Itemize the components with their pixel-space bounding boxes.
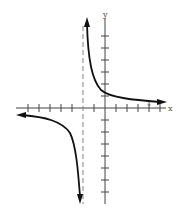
arrowhead-up-icon bbox=[84, 17, 90, 27]
curve-left-branch bbox=[22, 115, 80, 196]
arrowhead-right-icon bbox=[157, 99, 167, 105]
curve-right-branch bbox=[87, 24, 160, 102]
x-axis-label: x bbox=[168, 104, 173, 113]
arrowhead-down-icon bbox=[77, 194, 83, 204]
x-tick-label-4: 4 bbox=[147, 100, 151, 107]
y-axis-label: y bbox=[102, 10, 108, 19]
arrowhead-left-icon bbox=[16, 112, 26, 118]
hyperbola-graph: x y 4 bbox=[0, 0, 187, 217]
